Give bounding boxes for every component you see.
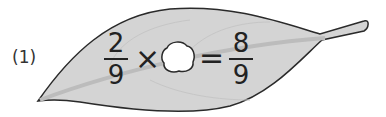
left-fraction: 2 9: [103, 29, 129, 89]
right-fraction: 8 9: [228, 29, 254, 89]
right-numerator: 8: [233, 29, 250, 57]
left-denominator: 9: [108, 61, 125, 89]
left-numerator: 2: [108, 29, 125, 57]
right-denominator: 9: [233, 61, 250, 89]
multiply-sign: ×: [135, 44, 160, 74]
equation: 2 9 × = 8 9: [0, 0, 386, 117]
equals-sign: =: [199, 43, 224, 73]
